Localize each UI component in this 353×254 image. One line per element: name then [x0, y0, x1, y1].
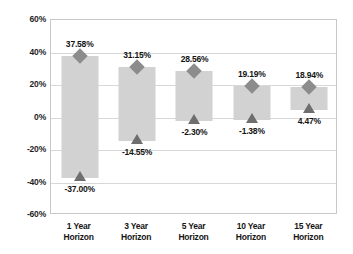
x-axis-tick-line: 1 Year [50, 221, 107, 232]
low-value-label: -37.00% [65, 185, 95, 194]
x-axis-tick-line: 3 Year [107, 221, 164, 232]
high-value-label: 19.19% [238, 70, 266, 79]
x-axis: 1 YearHorizon3 YearHorizon5 YearHorizon1… [50, 221, 337, 251]
x-axis-tick-label: 1 YearHorizon [50, 221, 107, 243]
y-axis-tick-label: -60% [0, 210, 46, 219]
high-value-label: 18.94% [295, 71, 323, 80]
y-axis-tick-label: 0% [0, 113, 46, 122]
x-axis-tick-label: 15 YearHorizon [280, 221, 337, 243]
x-axis-tick-line: Horizon [222, 232, 279, 243]
low-value-triangle-marker [246, 113, 258, 123]
high-value-label: 28.56% [181, 55, 209, 64]
low-value-label: -2.30% [182, 128, 208, 137]
low-value-triangle-marker [303, 103, 315, 113]
y-axis-tick-label: -40% [0, 178, 46, 187]
chart-container: 60%40%20%0%-20%-40%-60% 37.58%-37.00%31.… [0, 0, 353, 254]
y-axis-tick-label: 40% [0, 48, 46, 57]
x-axis-tick-label: 10 YearHorizon [222, 221, 279, 243]
plot-area: 37.58%-37.00%31.15%-14.55%28.56%-2.30%19… [50, 19, 337, 214]
x-axis-tick-line: Horizon [50, 232, 107, 243]
x-axis-tick-label: 5 YearHorizon [165, 221, 222, 243]
low-value-triangle-marker [188, 114, 200, 124]
x-axis-tick-label: 3 YearHorizon [107, 221, 164, 243]
bar-group[interactable]: 19.19%-1.38% [223, 20, 280, 213]
bar-group[interactable]: 28.56%-2.30% [166, 20, 223, 213]
x-axis-tick-line: 5 Year [165, 221, 222, 232]
y-axis-tick-label: 20% [0, 80, 46, 89]
x-axis-tick-line: Horizon [107, 232, 164, 243]
range-bar[interactable] [61, 56, 98, 177]
bar-group[interactable]: 37.58%-37.00% [51, 20, 108, 213]
high-value-label: 37.58% [66, 40, 94, 49]
x-axis-tick-line: 15 Year [280, 221, 337, 232]
low-value-triangle-marker [131, 134, 143, 144]
low-value-triangle-marker [74, 171, 86, 181]
x-axis-tick-line: 10 Year [222, 221, 279, 232]
low-value-label: 4.47% [298, 117, 321, 126]
x-axis-tick-line: Horizon [165, 232, 222, 243]
low-value-label: -1.38% [239, 127, 265, 136]
x-axis-tick-line: Horizon [280, 232, 337, 243]
high-value-label: 31.15% [123, 51, 151, 60]
range-bar[interactable] [119, 67, 156, 141]
low-value-label: -14.55% [122, 148, 152, 157]
bar-group[interactable]: 18.94%4.47% [281, 20, 338, 213]
y-axis-tick-label: -20% [0, 145, 46, 154]
bar-group[interactable]: 31.15%-14.55% [108, 20, 165, 213]
y-axis-tick-label: 60% [0, 15, 46, 24]
